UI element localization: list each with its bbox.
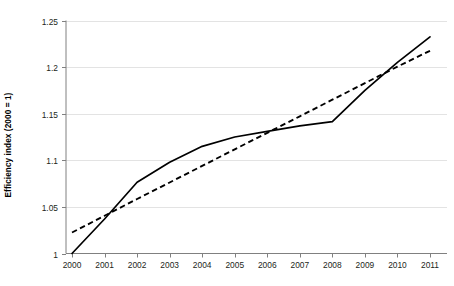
y-axis-tick-label: 1.25 — [42, 17, 59, 27]
x-axis-tick-label: 2001 — [95, 260, 114, 270]
grid-lines — [66, 22, 447, 208]
data-series-layer — [72, 37, 430, 254]
x-axis-tick-labels: 2000200120022003200420052006200720082009… — [63, 260, 440, 270]
x-axis-ticks — [73, 254, 431, 258]
x-axis-tick-label: 2003 — [160, 260, 179, 270]
y-axis-tick-label: 1.2 — [46, 63, 58, 73]
x-axis-tick-label: 2006 — [258, 260, 277, 270]
x-axis-tick-label: 2010 — [388, 260, 407, 270]
y-axis-tick-label: 1 — [53, 250, 58, 260]
x-axis-tick-label: 2008 — [323, 260, 342, 270]
line-chart: 11.051.11.151.21.25 20002001200220032004… — [0, 0, 454, 286]
x-axis-tick-label: 2011 — [421, 260, 439, 270]
y-axis-tick-labels: 11.051.11.151.21.25 — [42, 17, 59, 260]
y-axis-ticks — [62, 22, 66, 255]
y-axis-tick-label: 1.1 — [46, 156, 58, 166]
series-line-linear-trend — [72, 51, 430, 233]
x-axis-tick-label: 2000 — [63, 260, 82, 270]
x-axis-tick-label: 2007 — [290, 260, 309, 270]
y-axis-tick-label: 1.15 — [42, 110, 59, 120]
x-axis-tick-label: 2009 — [356, 260, 375, 270]
x-axis-tick-label: 2004 — [193, 260, 212, 270]
y-axis-title: Efficiency index (2000 = 1) — [4, 92, 13, 197]
series-line-efficiency-index — [72, 37, 430, 254]
chart-container: 11.051.11.151.21.25 20002001200220032004… — [0, 0, 454, 286]
x-axis-tick-label: 2005 — [225, 260, 244, 270]
y-axis-tick-label: 1.05 — [42, 203, 59, 213]
axis-lines — [66, 21, 447, 254]
x-axis-tick-label: 2002 — [128, 260, 147, 270]
